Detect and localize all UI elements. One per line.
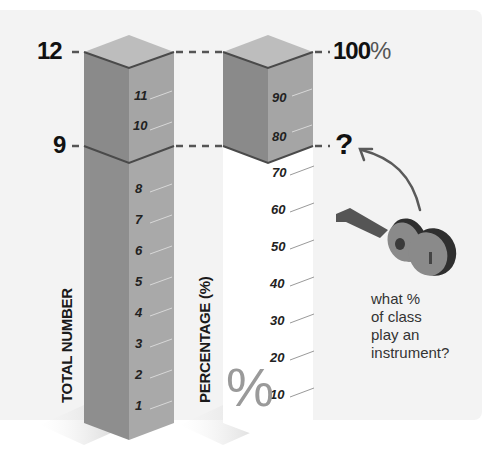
percentage-tick-90: 90 xyxy=(272,90,286,105)
total-tick-7: 7 xyxy=(135,212,142,227)
total-tick-4: 4 xyxy=(135,305,142,320)
caption-line: play an xyxy=(371,326,449,344)
total-max-value: 12 xyxy=(37,37,62,65)
guitar-icon xyxy=(336,208,463,282)
percentage-tick-60: 60 xyxy=(271,202,285,217)
question-caption: what % of class play an instrument? xyxy=(371,290,449,362)
caption-line: of class xyxy=(371,308,449,326)
curved-arrow xyxy=(360,149,420,210)
percentage-axis-label: PERCENTAGE (%) xyxy=(196,277,213,403)
percentage-unit: % xyxy=(370,37,390,64)
total-tick-6: 6 xyxy=(135,243,142,258)
total-tick-3: 3 xyxy=(135,336,142,351)
unknown-percentage-marker: ? xyxy=(335,127,353,161)
percentage-tick-30: 30 xyxy=(270,313,284,328)
caption-line: instrument? xyxy=(371,344,449,362)
total-tick-11: 11 xyxy=(134,88,148,103)
total-tick-1: 1 xyxy=(135,398,142,413)
percentage-tick-50: 50 xyxy=(271,239,285,254)
percentage-tick-40: 40 xyxy=(270,276,284,291)
total-number-column xyxy=(84,35,174,440)
total-marker-value: 9 xyxy=(53,131,65,159)
caption-line: what % xyxy=(371,290,449,308)
total-number-axis-label: TOTAL NUMBER xyxy=(58,288,75,403)
percentage-tick-80: 80 xyxy=(272,129,286,144)
total-tick-10: 10 xyxy=(133,118,147,133)
percentage-max-value: 100% xyxy=(333,37,390,65)
total-tick-8: 8 xyxy=(135,181,142,196)
percentage-tick-70: 70 xyxy=(272,165,286,180)
total-tick-2: 2 xyxy=(135,367,142,382)
total-tick-5: 5 xyxy=(135,274,142,289)
percentage-max-number: 100 xyxy=(333,37,370,64)
percent-watermark: % xyxy=(226,360,274,414)
